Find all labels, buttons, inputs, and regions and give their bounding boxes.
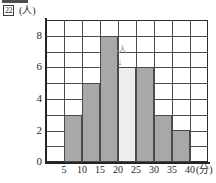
x-axis-tick-labels: 5 10 15 20 25 30 35 40 (分) — [0, 164, 216, 180]
x-tick-25: 25 — [127, 164, 145, 175]
y-tick-4: 4 — [28, 93, 42, 104]
x-tick-35: 35 — [163, 164, 181, 175]
x-axis-unit-label: (分) — [196, 164, 213, 175]
bar-10-15 — [82, 83, 100, 162]
plot-area — [46, 20, 208, 162]
annotation-text: 5人 — [109, 46, 131, 55]
y-tick-6: 6 — [28, 61, 42, 72]
bar-25-30 — [136, 67, 154, 162]
histogram-bars — [46, 20, 208, 162]
down-arrow-icon: ↓ — [109, 56, 131, 66]
scan-artifact-bar — [2, 0, 28, 3]
bar-20-25 — [118, 67, 136, 162]
x-tick-10: 10 — [73, 164, 91, 175]
x-tick-30: 30 — [145, 164, 163, 175]
y-axis-line — [45, 18, 47, 164]
bar-annotation: 5人 ↓ — [109, 46, 131, 66]
bar-35-40 — [172, 130, 190, 162]
y-axis-tick-labels: 8 6 4 2 0 — [26, 0, 42, 183]
y-tick-2: 2 — [28, 125, 42, 136]
histogram-figure: 22 (人) 8 6 4 2 0 — [0, 0, 216, 183]
y-tick-8: 8 — [28, 30, 42, 41]
x-tick-15: 15 — [91, 164, 109, 175]
x-tick-20: 20 — [109, 164, 127, 175]
bar-30-35 — [154, 115, 172, 162]
x-tick-5: 5 — [55, 164, 73, 175]
bar-5-10 — [64, 115, 82, 162]
question-number-marker: 22 — [3, 5, 14, 16]
